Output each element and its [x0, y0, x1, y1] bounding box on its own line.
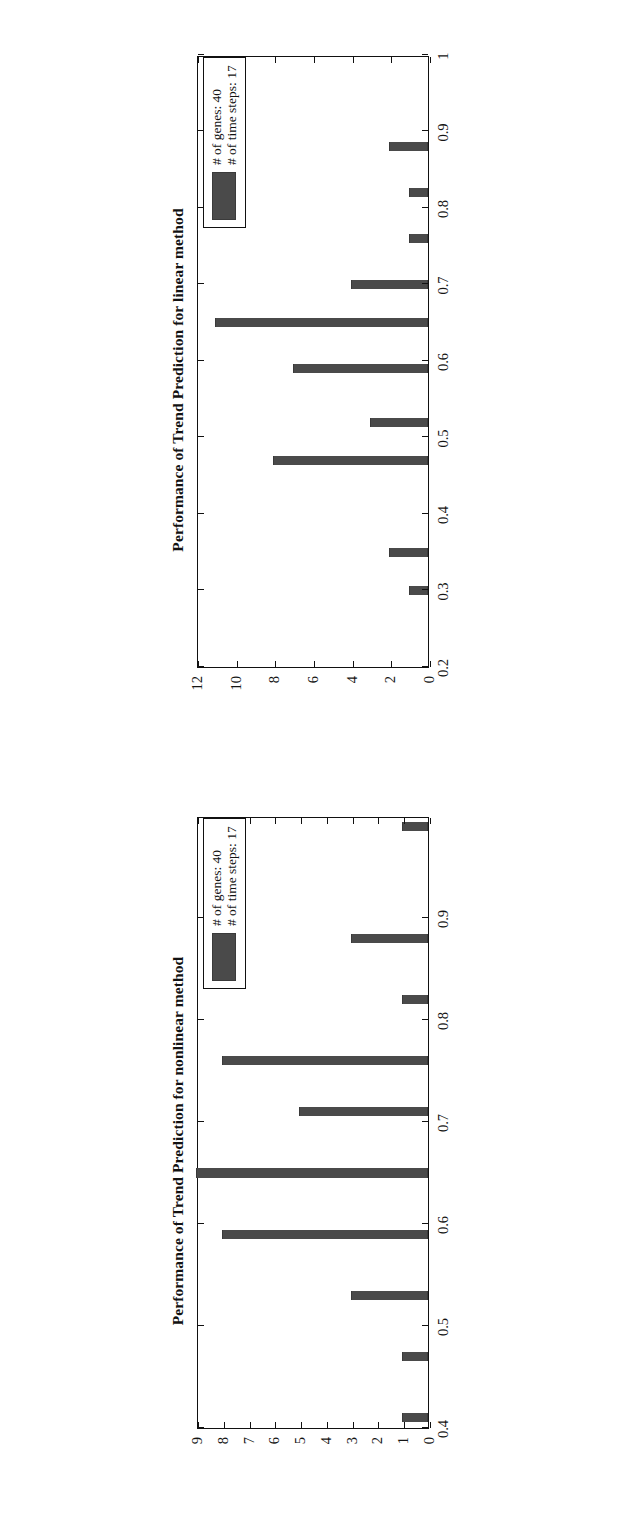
x-tick-label: 0.8 — [435, 1012, 452, 1030]
y-tick-label: 7 — [240, 1437, 257, 1473]
x-tick-top — [198, 1325, 204, 1326]
legend-nonlinear: # of genes: 40 # of time steps: 17 — [203, 818, 246, 989]
figure-page: Performance of Trend Prediction for line… — [0, 0, 633, 1521]
y-tick-label: 3 — [343, 1437, 360, 1473]
figure-linear: Performance of Trend Prediction for line… — [167, 30, 467, 730]
y-tick-right — [198, 818, 199, 824]
y-tick — [314, 661, 315, 667]
y-tick-right — [352, 818, 353, 824]
legend-line-genes: # of genes: 40 — [209, 65, 224, 165]
x-tick — [422, 360, 428, 361]
x-tick — [422, 917, 428, 918]
y-tick — [249, 1422, 250, 1428]
bar — [389, 548, 428, 557]
legend-linear: # of genes: 40 # of time steps: 17 — [203, 57, 246, 228]
x-tick — [422, 513, 428, 514]
y-tick-right — [404, 818, 405, 824]
x-tick — [422, 1427, 428, 1428]
y-tick-right — [430, 818, 431, 824]
x-tick-label: 0.5 — [435, 429, 452, 447]
y-tick-right — [275, 57, 276, 63]
x-tick — [422, 1019, 428, 1020]
y-tick-label: 0 — [420, 676, 437, 712]
y-tick — [326, 1422, 327, 1428]
y-tick — [223, 1422, 224, 1428]
x-tick — [422, 54, 428, 55]
y-tick-right — [275, 818, 276, 824]
y-tick — [275, 661, 276, 667]
x-tick-top — [198, 54, 204, 55]
bar — [221, 1230, 427, 1239]
y-tick-label: 9 — [188, 1437, 205, 1473]
bar — [408, 188, 427, 197]
bar — [196, 1168, 428, 1177]
y-tick — [198, 661, 199, 667]
x-tick — [422, 131, 428, 132]
bar — [215, 318, 428, 327]
legend-text-linear: # of genes: 40 # of time steps: 17 — [209, 65, 240, 165]
x-tick-label: 0.2 — [435, 659, 452, 677]
x-tick-label: 0.6 — [435, 1216, 452, 1234]
x-tick-top — [198, 1223, 204, 1224]
figure-nonlinear: Performance of Trend Prediction for nonl… — [167, 791, 467, 1491]
y-tick-label: 8 — [265, 676, 282, 712]
bar — [408, 234, 427, 243]
bar — [221, 1056, 427, 1065]
y-tick-right — [391, 57, 392, 63]
y-tick — [352, 1422, 353, 1428]
x-tick-label: 0.7 — [435, 1114, 452, 1132]
x-tick — [422, 1223, 428, 1224]
x-tick-top — [198, 513, 204, 514]
y-tick-label: 6 — [304, 676, 321, 712]
x-tick-label: 1 — [435, 52, 452, 59]
y-tick-label: 0 — [420, 1437, 437, 1473]
chart-title-nonlinear: Performance of Trend Prediction for nonl… — [169, 791, 187, 1491]
y-tick — [301, 1422, 302, 1428]
y-tick — [236, 661, 237, 667]
y-tick — [378, 1422, 379, 1428]
x-tick-top — [198, 437, 204, 438]
y-tick — [404, 1422, 405, 1428]
y-tick-right — [301, 818, 302, 824]
y-tick-label: 2 — [381, 676, 398, 712]
x-tick-top — [198, 1121, 204, 1122]
bar — [389, 142, 428, 151]
y-tick-right — [326, 818, 327, 824]
bar — [408, 586, 427, 595]
x-tick-label: 0.4 — [435, 1420, 452, 1438]
y-tick-right — [198, 57, 199, 63]
legend-line-timesteps: # of time steps: 17 — [224, 826, 239, 926]
x-tick — [422, 666, 428, 667]
legend-line-genes: # of genes: 40 — [209, 826, 224, 926]
x-tick-top — [198, 1019, 204, 1020]
x-tick — [422, 1121, 428, 1122]
y-tick — [391, 661, 392, 667]
chart-title-linear: Performance of Trend Prediction for line… — [169, 30, 187, 730]
x-tick — [422, 284, 428, 285]
x-tick-label: 0.5 — [435, 1318, 452, 1336]
y-tick-right — [430, 57, 431, 63]
x-tick-label: 0.9 — [435, 910, 452, 928]
x-tick-top — [198, 360, 204, 361]
y-tick-right — [378, 818, 379, 824]
y-tick-right — [352, 57, 353, 63]
bar — [350, 934, 427, 943]
y-tick — [198, 1422, 199, 1428]
x-tick — [422, 207, 428, 208]
x-tick-label: 0.4 — [435, 506, 452, 524]
y-tick-label: 2 — [368, 1437, 385, 1473]
x-tick-top — [198, 590, 204, 591]
y-tick-label: 6 — [265, 1437, 282, 1473]
x-tick-label: 0.9 — [435, 123, 452, 141]
y-tick — [275, 1422, 276, 1428]
bar — [299, 1107, 428, 1116]
x-tick-label: 0.3 — [435, 582, 452, 600]
bar — [273, 456, 428, 465]
y-tick — [430, 661, 431, 667]
x-tick — [422, 590, 428, 591]
y-tick-label: 4 — [343, 676, 360, 712]
legend-swatch-icon — [212, 172, 236, 220]
x-tick — [422, 437, 428, 438]
legend-line-timesteps: # of time steps: 17 — [224, 65, 239, 165]
y-tick-label: 10 — [227, 676, 244, 712]
